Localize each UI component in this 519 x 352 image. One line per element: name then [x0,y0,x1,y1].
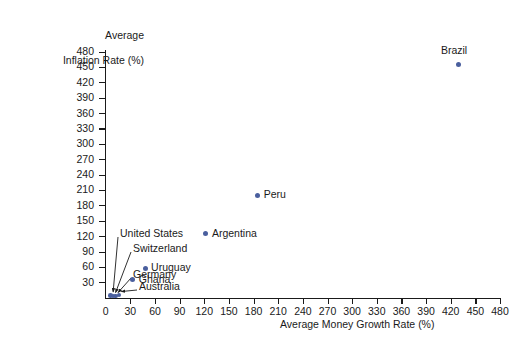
y-axis-tick-label: 90 [42,246,94,257]
x-axis-tick [278,298,279,304]
y-axis-tick-label: 390 [42,92,94,103]
x-axis-tick [180,298,181,304]
y-axis-tick [99,113,105,114]
x-axis-tick [401,298,402,304]
y-axis-tick [99,236,105,237]
y-axis-tick-label: 150 [42,215,94,226]
y-axis-tick-label: 240 [42,169,94,180]
y-axis-tick [99,82,105,83]
x-axis-title: Average Money Growth Rate (%) [280,318,434,330]
y-axis-tick-label: 330 [42,123,94,134]
x-axis-tick-label: 480 [480,306,519,317]
callout-label: Germany [133,269,176,280]
x-axis-tick [254,298,255,304]
x-axis-tick [303,298,304,304]
callout-label: United States [120,228,183,239]
y-axis-tick [99,221,105,222]
x-axis-tick [426,298,427,304]
y-axis-tick [99,159,105,160]
x-axis-tick [475,298,476,304]
y-axis-tick [99,205,105,206]
y-axis-tick [99,175,105,176]
y-axis-tick-label: 480 [42,46,94,57]
x-axis-tick [328,298,329,304]
x-axis-tick [130,298,131,304]
y-axis-title: Average Inflation Rate (%) [22,16,144,66]
point-label: Peru [264,189,286,200]
y-axis-tick [99,128,105,129]
data-point [203,231,208,236]
callout-leader-line [118,278,131,293]
data-point [456,62,461,67]
x-axis-tick [500,298,501,304]
y-axis-line [105,50,106,299]
point-label: Argentina [212,228,257,239]
y-axis-tick-label: 420 [42,77,94,88]
data-point [255,193,260,198]
point-label: Brazil [441,45,467,56]
data-point [117,293,122,298]
y-axis-tick-label: 180 [42,200,94,211]
y-axis-tick-label: 450 [42,61,94,72]
callout-leader-line [113,237,118,292]
x-axis-tick [451,298,452,304]
y-axis-tick [99,144,105,145]
y-axis-tick [99,282,105,283]
x-axis-tick [352,298,353,304]
y-axis-tick [99,267,105,268]
y-axis-tick-label: 30 [42,277,94,288]
y-axis-tick-label: 210 [42,184,94,195]
callout-label: Australia [139,281,180,292]
x-axis-tick [155,298,156,304]
callout-label: Switzerland [133,243,187,254]
y-axis-tick [99,252,105,253]
y-axis-tick [99,67,105,68]
y-axis-tick-label: 270 [42,154,94,165]
y-axis-tick [99,98,105,99]
y-axis-tick [99,190,105,191]
callout-leader-line [121,290,137,292]
x-axis-tick [204,298,205,304]
y-axis-tick-label: 60 [42,261,94,272]
y-axis-tick [99,52,105,53]
callout-leader-line [116,252,131,293]
y-axis-tick-label: 120 [42,231,94,242]
scatter-chart: Average Inflation Rate (%) 3060901201501… [0,0,519,352]
y-axis-title-line1: Average [105,29,144,41]
x-axis-tick [229,298,230,304]
y-axis-tick-label: 300 [42,138,94,149]
y-axis-tick-label: 360 [42,108,94,119]
x-axis-tick [377,298,378,304]
